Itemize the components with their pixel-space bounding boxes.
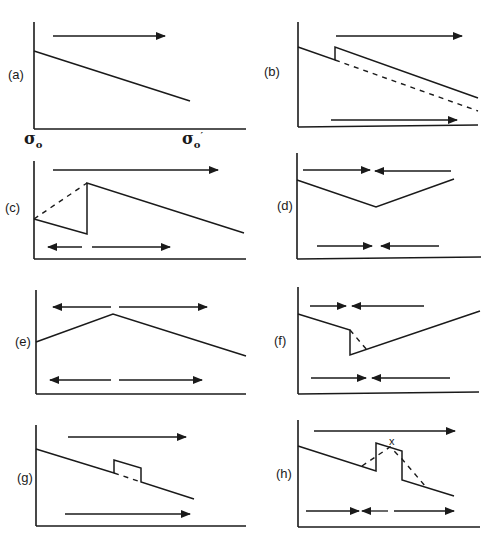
sigma-o-label: σo bbox=[24, 129, 43, 150]
panel-label-g: (g) bbox=[17, 470, 33, 485]
panel-a: (a) σo σo′ bbox=[8, 22, 246, 150]
panel-f: (f) bbox=[274, 287, 480, 394]
panel-c: (c) bbox=[5, 161, 246, 259]
panel-g: (g) bbox=[17, 425, 246, 526]
sigma-o-prime-label: σo′ bbox=[182, 129, 203, 150]
panel-label-e: (e) bbox=[15, 334, 31, 349]
peak-marker-x: x bbox=[389, 435, 395, 447]
panel-label-f: (f) bbox=[274, 333, 286, 348]
panel-h: x (h) bbox=[276, 420, 480, 527]
panel-d: (d) bbox=[277, 153, 481, 259]
panel-b: (b) bbox=[264, 22, 478, 127]
panel-label-b: (b) bbox=[264, 64, 280, 79]
profile-line bbox=[34, 51, 190, 101]
panel-e: (e) bbox=[15, 290, 246, 394]
panel-label-d: (d) bbox=[277, 198, 293, 213]
figure-canvas: (a) σo σo′ (b) (c) (d) bbox=[0, 0, 496, 541]
panel-label-h: (h) bbox=[276, 466, 292, 481]
panel-label-a: (a) bbox=[8, 67, 24, 82]
panel-label-c: (c) bbox=[5, 200, 20, 215]
